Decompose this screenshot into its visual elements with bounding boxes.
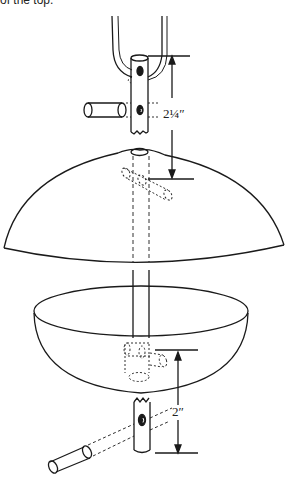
lower-tube <box>134 398 150 453</box>
upper-pin <box>84 103 158 117</box>
dimension-label-lower: 2″ <box>172 404 184 419</box>
dimension-lower <box>155 350 198 453</box>
lower-pin <box>47 408 172 475</box>
dimension-label-upper: 2¼″ <box>163 106 185 121</box>
feeder-assembly-diagram: 2¼″ 2″ <box>0 0 288 486</box>
roof-dome <box>4 149 284 263</box>
dish-bowl <box>34 286 248 393</box>
upper-tube <box>131 55 148 134</box>
middle-tube <box>133 270 149 338</box>
